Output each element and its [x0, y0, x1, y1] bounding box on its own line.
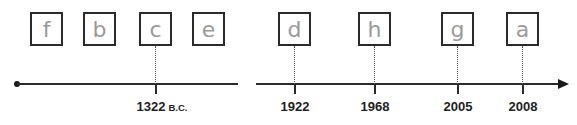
- year-number: 1922: [281, 99, 310, 114]
- handwritten-letter: c: [149, 19, 161, 41]
- year-label-1922: 1922: [281, 99, 310, 114]
- timeline-axis-right-segment: [256, 83, 560, 85]
- year-number: 2008: [509, 99, 538, 114]
- letter-box-5: d: [278, 12, 311, 46]
- connector-1322bc: [155, 46, 156, 84]
- letter-box-2: b: [83, 12, 116, 46]
- era-label: B.C.: [168, 102, 187, 113]
- year-label-1322bc: 1322B.C.: [137, 99, 188, 114]
- connector-2005: [457, 46, 458, 84]
- tick-2005: [457, 84, 459, 94]
- tick-2008: [522, 84, 524, 94]
- year-number: 2005: [444, 99, 473, 114]
- handwritten-letter: d: [288, 19, 302, 41]
- tick-1922: [294, 84, 296, 94]
- letter-box-8: a: [506, 12, 539, 46]
- handwritten-letter: g: [451, 19, 465, 41]
- letter-box-3: c: [139, 12, 172, 46]
- handwritten-letter: a: [516, 19, 529, 41]
- handwritten-letter: b: [93, 19, 107, 41]
- letter-box-4: e: [192, 12, 225, 46]
- year-label-2005: 2005: [444, 99, 473, 114]
- year-label-1968: 1968: [361, 99, 390, 114]
- connector-1968: [374, 46, 375, 84]
- handwritten-letter: e: [202, 19, 216, 41]
- year-label-2008: 2008: [509, 99, 538, 114]
- arrow-right-icon: [558, 79, 569, 89]
- letter-box-7: g: [441, 12, 474, 46]
- letter-box-1: f: [30, 12, 63, 46]
- connector-1922: [294, 46, 295, 84]
- tick-1322bc: [155, 84, 157, 94]
- handwritten-letter: f: [43, 19, 51, 41]
- tick-1968: [374, 84, 376, 94]
- timeline-axis-left-segment: [17, 83, 238, 85]
- handwritten-letter: h: [368, 19, 382, 41]
- connector-2008: [522, 46, 523, 84]
- year-number: 1322: [137, 99, 166, 114]
- letter-box-6: h: [358, 12, 391, 46]
- year-number: 1968: [361, 99, 390, 114]
